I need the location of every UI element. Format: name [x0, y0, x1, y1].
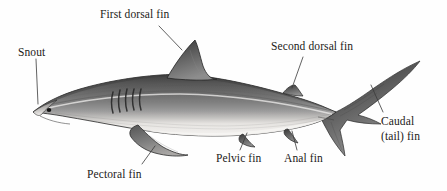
label-snout: Snout	[18, 45, 45, 59]
label-second-dorsal-fin: Second dorsal fin	[271, 39, 353, 53]
label-anal-fin: Anal fin	[284, 151, 323, 165]
label-pectoral-fin: Pectoral fin	[87, 167, 142, 181]
label-pelvic-fin: Pelvic fin	[216, 151, 261, 165]
label-first-dorsal-fin: First dorsal fin	[100, 7, 169, 21]
shark-anatomy-figure: Snout First dorsal fin Second dorsal fin…	[0, 0, 447, 191]
label-caudal-fin-line2: (tail) fin	[381, 129, 420, 143]
eye	[47, 108, 52, 112]
label-caudal-fin-line1: Caudal	[381, 114, 414, 128]
